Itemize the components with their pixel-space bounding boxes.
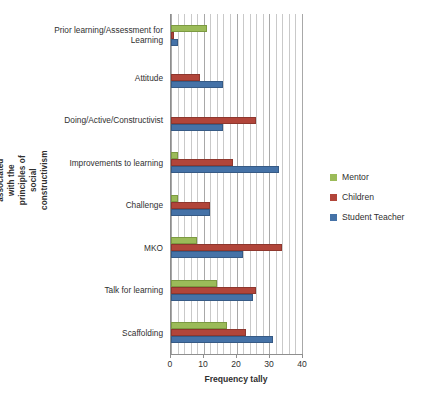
- bar-chart: Themes most associated with the principl…: [0, 0, 427, 402]
- category-label: Scaffolding: [34, 312, 168, 355]
- legend-label: Mentor: [342, 172, 369, 182]
- x-axis-tick: [302, 354, 303, 358]
- category-labels: Prior learning/Assessment for LearningAt…: [34, 14, 168, 354]
- bar-mentor: [171, 152, 178, 159]
- category-label: MKO: [34, 227, 168, 270]
- x-axis-tick: [170, 354, 171, 358]
- bar-student-teacher: [171, 336, 273, 343]
- bar-group: [171, 99, 302, 142]
- bar-children: [171, 159, 233, 166]
- bar-children: [171, 287, 256, 294]
- x-axis-tick: [236, 354, 237, 358]
- bar-group: [171, 312, 302, 355]
- bar-student-teacher: [171, 209, 210, 216]
- plot-area: [170, 14, 302, 354]
- category-label-text: Improvements to learning: [69, 158, 163, 168]
- bar-student-teacher: [171, 39, 178, 46]
- x-axis-tick-label: 20: [231, 359, 241, 369]
- bar-student-teacher: [171, 251, 243, 258]
- bar-group: [171, 269, 302, 312]
- legend: MentorChildrenStudent Teacher: [330, 172, 404, 222]
- x-axis-tick-label: 40: [297, 359, 307, 369]
- category-label: Challenge: [34, 184, 168, 227]
- gridline: [302, 14, 303, 354]
- category-label-text: MKO: [144, 243, 163, 253]
- bar-group: [171, 184, 302, 227]
- bar-mentor: [171, 195, 178, 202]
- x-axis-title: Frequency tally: [170, 374, 302, 384]
- category-label: Talk for learning: [34, 269, 168, 312]
- x-axis-tick: [269, 354, 270, 358]
- x-axis-tick-label: 30: [264, 359, 274, 369]
- legend-item-mentor[interactable]: Mentor: [330, 172, 404, 182]
- legend-item-student-teacher[interactable]: Student Teacher: [330, 212, 404, 222]
- legend-item-children[interactable]: Children: [330, 192, 404, 202]
- bar-mentor: [171, 25, 207, 32]
- category-label: Doing/Active/Constructivist: [34, 99, 168, 142]
- category-label-text: Challenge: [126, 200, 163, 210]
- bar-groups: [171, 14, 302, 354]
- bar-student-teacher: [171, 294, 253, 301]
- legend-label: Children: [342, 192, 374, 202]
- bar-children: [171, 329, 246, 336]
- bar-student-teacher: [171, 124, 223, 131]
- bar-group: [171, 227, 302, 270]
- legend-swatch-icon: [330, 194, 337, 201]
- category-label: Attitude: [34, 57, 168, 100]
- bar-student-teacher: [171, 81, 223, 88]
- y-axis-title: Themes most associated with the principl…: [0, 0, 34, 360]
- legend-swatch-icon: [330, 214, 337, 221]
- legend-label: Student Teacher: [342, 212, 404, 222]
- bar-group: [171, 57, 302, 100]
- bar-children: [171, 244, 282, 251]
- bar-mentor: [171, 280, 217, 287]
- x-axis-tick-labels: 010203040: [170, 359, 302, 373]
- bar-group: [171, 14, 302, 57]
- bar-children: [171, 32, 174, 39]
- legend-swatch-icon: [330, 174, 337, 181]
- bar-student-teacher: [171, 166, 279, 173]
- x-axis-tick: [203, 354, 204, 358]
- bar-children: [171, 202, 210, 209]
- bar-children: [171, 74, 200, 81]
- bar-mentor: [171, 237, 197, 244]
- category-label-text: Talk for learning: [104, 285, 163, 295]
- bar-children: [171, 117, 256, 124]
- bar-group: [171, 142, 302, 185]
- category-label: Improvements to learning: [34, 142, 168, 185]
- category-label-text: Prior learning/Assessment for Learning: [34, 25, 163, 46]
- bar-mentor: [171, 322, 227, 329]
- x-axis-tick-label: 10: [198, 359, 208, 369]
- category-label: Prior learning/Assessment for Learning: [34, 14, 168, 57]
- category-label-text: Doing/Active/Constructivist: [64, 115, 163, 125]
- x-axis-tick-label: 0: [168, 359, 173, 369]
- category-label-text: Attitude: [135, 73, 163, 83]
- category-label-text: Scaffolding: [122, 328, 163, 338]
